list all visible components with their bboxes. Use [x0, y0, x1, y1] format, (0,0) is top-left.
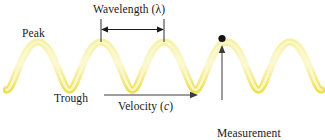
peak-label: Peak	[22, 27, 45, 41]
wave-diagram: Wavelength (λ) Peak Trough Velocity (c) …	[0, 0, 325, 140]
wave-path	[7, 42, 322, 90]
measurement-point-label: Measurement point for frequency (υ)	[217, 100, 281, 140]
wavelength-arrowhead-left	[101, 27, 108, 33]
wavelength-label: Wavelength (λ)	[93, 3, 165, 17]
velocity-label: Velocity (c)	[118, 100, 173, 114]
velocity-label-prefix: Velocity (	[118, 100, 164, 112]
measurement-point-dot	[218, 35, 225, 42]
measurement-label-line-1: Measurement	[217, 127, 281, 140]
wavelength-arrowhead-right	[157, 27, 164, 33]
trough-label: Trough	[54, 92, 88, 106]
velocity-label-suffix: )	[169, 100, 173, 112]
